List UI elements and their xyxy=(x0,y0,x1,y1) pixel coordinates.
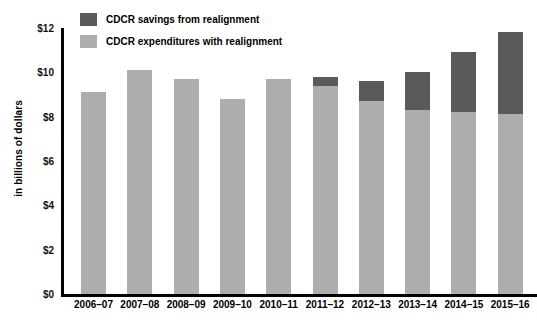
bar-group xyxy=(127,28,152,294)
x-axis-tick-labels: 2006–072007–082008–092009–102010–112011–… xyxy=(64,299,534,317)
bar-segment-savings xyxy=(359,81,384,101)
bar-group xyxy=(81,28,106,294)
bar-series-container xyxy=(64,28,531,294)
bar-segment-expenditures xyxy=(127,70,152,294)
y-axis-tick-label: $0 xyxy=(22,289,54,300)
bar-segment-expenditures xyxy=(498,114,523,294)
bar-segment-expenditures xyxy=(451,112,476,294)
y-axis-tick-label: $10 xyxy=(22,67,54,78)
bar-segment-savings xyxy=(451,52,476,112)
bar-segment-expenditures xyxy=(405,110,430,294)
legend-item-label: CDCR savings from realignment xyxy=(106,13,259,26)
bar-segment-expenditures xyxy=(220,99,245,294)
chart-legend: CDCR savings from realignmentCDCR expend… xyxy=(80,11,340,55)
y-axis-title: in billions of dollars xyxy=(13,84,24,214)
y-axis-tick-label: $12 xyxy=(22,23,54,34)
legend-item-label: CDCR expenditures with realignment xyxy=(106,35,282,48)
bar-group xyxy=(174,28,199,294)
y-axis-tick-label: $2 xyxy=(22,244,54,255)
bar-group xyxy=(405,28,430,294)
x-axis-line xyxy=(61,294,537,297)
bar-segment-savings xyxy=(405,72,430,110)
y-axis-tick-label: $4 xyxy=(22,200,54,211)
legend-item: CDCR expenditures with realignment xyxy=(80,33,340,50)
bar-segment-savings xyxy=(498,32,523,114)
bar-group xyxy=(498,28,523,294)
bar-group xyxy=(359,28,384,294)
bar-chart: in billions of dollars $0$2$4$6$8$10$12 … xyxy=(0,0,537,322)
y-axis-tick-label: $8 xyxy=(22,111,54,122)
bar-group xyxy=(220,28,245,294)
bar-group xyxy=(451,28,476,294)
bar-segment-expenditures xyxy=(313,86,338,294)
legend-swatch-icon xyxy=(80,35,97,48)
bar-group xyxy=(313,28,338,294)
x-axis-tick-label: 2015–16 xyxy=(480,299,537,310)
bar-group xyxy=(266,28,291,294)
bar-segment-savings xyxy=(313,77,338,86)
legend-swatch-icon xyxy=(80,13,97,26)
bar-segment-expenditures xyxy=(359,101,384,294)
bar-segment-expenditures xyxy=(81,92,106,294)
legend-item: CDCR savings from realignment xyxy=(80,11,340,28)
plot-area xyxy=(61,28,531,294)
bar-segment-expenditures xyxy=(174,79,199,294)
bar-segment-expenditures xyxy=(266,79,291,294)
y-axis-tick-label: $6 xyxy=(22,156,54,167)
